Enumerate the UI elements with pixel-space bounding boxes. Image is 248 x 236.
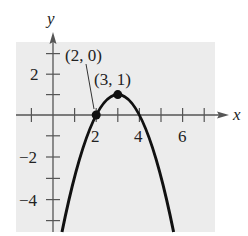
y-tick-label-2: 2 <box>30 65 39 84</box>
y-tick-label-neg4: −4 <box>19 191 38 210</box>
point-3-1 <box>113 90 122 99</box>
x-tick-label-6: 6 <box>178 127 187 146</box>
parabola-chart: 2 4 6 2 −2 −4 x y (2, 0) (3, 1) <box>0 0 248 236</box>
point-label-2-0: (2, 0) <box>65 46 102 65</box>
y-axis-label: y <box>45 9 55 28</box>
y-tick-label-neg2: −2 <box>19 148 37 167</box>
point-label-3-1: (3, 1) <box>94 70 131 89</box>
x-axis-label: x <box>232 105 241 124</box>
x-tick-label-2: 2 <box>91 127 100 146</box>
x-tick-label-4: 4 <box>134 127 143 146</box>
point-2-0 <box>92 111 101 120</box>
